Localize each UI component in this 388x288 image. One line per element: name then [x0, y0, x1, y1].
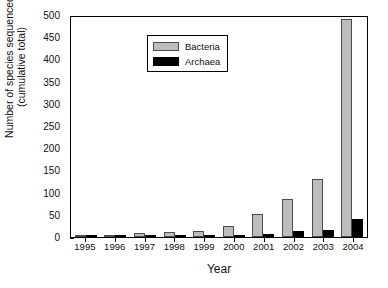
bar-bacteria-1996: [104, 235, 115, 237]
x-tick-label: 1995: [72, 241, 97, 257]
y-axis-labels: 500450400350300250200150100500: [0, 16, 68, 238]
bar-group: [281, 17, 306, 237]
bar-archaea-2001: [263, 234, 274, 237]
x-tick-label: 1996: [102, 241, 127, 257]
bar-bacteria-2003: [312, 179, 323, 237]
chart-legend: Bacteria Archaea: [147, 35, 228, 72]
bar-bacteria-2000: [223, 226, 234, 237]
legend-item-archaea: Archaea: [153, 55, 220, 67]
y-tick-label: 100: [43, 189, 60, 199]
y-tick-label: 500: [43, 11, 60, 21]
bar-group: [251, 17, 276, 237]
plot-area: Bacteria Archaea: [70, 16, 368, 238]
bar-group: [73, 17, 98, 237]
legend-label-archaea: Archaea: [185, 56, 220, 67]
bar-archaea-2002: [293, 231, 304, 237]
bar-bacteria-1995: [75, 235, 86, 237]
bar-archaea-1998: [175, 235, 186, 237]
bar-bacteria-2001: [252, 214, 263, 237]
y-tick-label: 0: [54, 233, 60, 243]
x-tick-label: 2001: [251, 241, 276, 257]
bar-group: [310, 17, 335, 237]
bar-bacteria-2004: [341, 19, 352, 237]
bar-archaea-2000: [234, 235, 245, 237]
bar-group: [340, 17, 365, 237]
legend-item-bacteria: Bacteria: [153, 40, 220, 52]
x-tick-label: 1998: [162, 241, 187, 257]
x-tick-label: 1999: [192, 241, 217, 257]
y-tick-label: 400: [43, 55, 60, 65]
bar-group: [103, 17, 128, 237]
x-tick-label: 2003: [311, 241, 336, 257]
x-tick-label: 2000: [221, 241, 246, 257]
x-tick-label: 2002: [281, 241, 306, 257]
x-tick-label: 2004: [341, 241, 366, 257]
y-tick-label: 150: [43, 166, 60, 176]
y-tick-label: 200: [43, 144, 60, 154]
bar-bacteria-1998: [164, 232, 175, 237]
y-tick-label: 450: [43, 33, 60, 43]
x-axis-title: Year: [70, 262, 368, 276]
bar-bacteria-2002: [282, 199, 293, 237]
bar-archaea-2004: [352, 219, 363, 237]
bar-archaea-1995: [86, 235, 97, 237]
y-tick-label: 250: [43, 122, 60, 132]
bar-archaea-1996: [115, 235, 126, 237]
y-tick-label: 300: [43, 100, 60, 110]
bar-archaea-1997: [145, 235, 156, 237]
x-axis-labels: 1995199619971998199920002001200220032004: [70, 241, 368, 257]
chart-figure: Number of species sequenced (cumulative …: [0, 0, 388, 288]
legend-swatch-bacteria: [153, 42, 179, 51]
bar-bacteria-1997: [134, 233, 145, 237]
y-tick-label: 50: [49, 211, 60, 221]
bar-archaea-1999: [204, 235, 215, 237]
legend-swatch-archaea: [153, 57, 179, 66]
x-tick-label: 1997: [132, 241, 157, 257]
bar-bacteria-1999: [193, 231, 204, 237]
bar-archaea-2003: [323, 230, 334, 237]
legend-label-bacteria: Bacteria: [185, 41, 220, 52]
y-tick-label: 350: [43, 78, 60, 88]
y-tick-mark: [70, 238, 74, 239]
